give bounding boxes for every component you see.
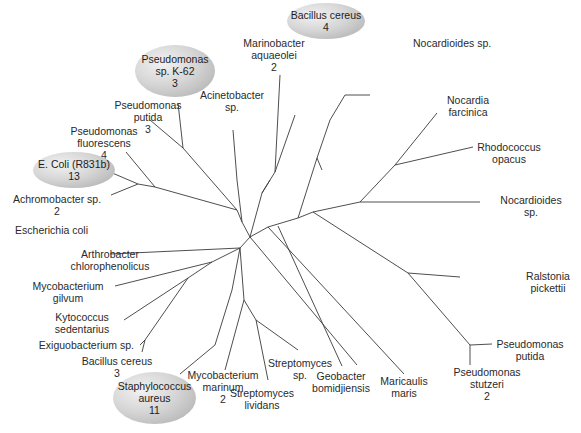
tree-branch: [275, 115, 295, 172]
tree-branch: [275, 75, 280, 172]
tree-branch: [313, 212, 408, 273]
taxon-label: Maricaulis maris: [380, 375, 427, 399]
tree-branch: [232, 248, 240, 290]
highlighted-taxon: Bacillus cereus 4: [287, 3, 365, 39]
highlighted-taxon-label: Pseudomonas sp. K-62 3: [141, 53, 208, 89]
tree-branch: [408, 273, 460, 277]
tree-branch: [225, 300, 244, 370]
tree-branch: [360, 165, 395, 202]
taxon-label: Arthrobacter chlorophenolicus: [71, 248, 150, 272]
highlighted-taxon-label: Bacillus cereus 4: [291, 9, 362, 33]
tree-branch: [470, 344, 492, 345]
tree-branch: [250, 237, 357, 365]
taxon-label: Exiguobacterium sp.: [39, 339, 134, 351]
taxon-label: Nocardioides sp.: [500, 194, 561, 218]
taxon-label: Geobacter bomidjiensis: [312, 370, 370, 394]
tree-branch: [408, 273, 470, 345]
taxon-label: Escherichia coli: [15, 224, 88, 236]
tree-branch: [298, 158, 317, 218]
tree-branch: [317, 158, 322, 170]
tree-branch: [215, 290, 232, 345]
tree-branch: [212, 248, 240, 262]
tree-branch: [242, 222, 250, 237]
taxon-label: Pseudomonas putida: [496, 338, 563, 362]
tree-branch: [317, 120, 330, 158]
taxon-label: Kytococcus sedentarius: [55, 311, 109, 335]
taxon-label: Streptomyces lividans: [230, 387, 294, 411]
tree-branch: [240, 237, 250, 248]
tree-branch: [262, 172, 275, 193]
highlighted-taxon: E. Coli (R831b) 13: [33, 152, 115, 188]
tree-branch: [298, 212, 313, 218]
taxon-label: Rhodococcus opacus: [477, 141, 541, 165]
taxon-label: Acinetobacter sp.: [200, 89, 264, 113]
tree-branch: [256, 320, 298, 350]
tree-branch: [268, 218, 298, 227]
taxon-label: Pseudomonas stutzeri 2: [453, 366, 520, 402]
taxon-label: Marinobacter aquaeolei 2: [243, 37, 304, 73]
tree-branch: [124, 278, 188, 320]
highlighted-taxon-label: E. Coli (R831b) 13: [38, 158, 110, 182]
highlighted-taxon: Staphylococcus aureus 11: [113, 372, 196, 424]
tree-branch: [240, 248, 244, 300]
taxon-label: Nocardioides sp.: [413, 37, 491, 49]
tree-branch: [233, 130, 237, 180]
taxon-label: Nocardia farcinica: [447, 94, 489, 118]
tree-branch: [155, 187, 237, 210]
taxon-label: Mycobacterium gilvum: [32, 280, 103, 304]
tree-branch: [250, 193, 262, 237]
tree-branch: [330, 95, 345, 120]
tree-branch: [244, 300, 256, 320]
tree-branch: [395, 147, 473, 165]
tree-branch: [111, 184, 138, 195]
tree-branch: [110, 172, 138, 184]
tree-branch: [145, 278, 188, 340]
taxon-label: Achromobacter sp. 2: [13, 193, 101, 217]
tree-branch: [313, 202, 360, 212]
tree-branch: [188, 262, 212, 278]
highlighted-taxon-label: Staphylococcus aureus 11: [118, 380, 192, 416]
tree-branch: [183, 148, 237, 210]
highlighted-taxon: Pseudomonas sp. K-62 3: [135, 45, 215, 97]
taxon-label: Ralstonia pickettii: [526, 270, 570, 294]
